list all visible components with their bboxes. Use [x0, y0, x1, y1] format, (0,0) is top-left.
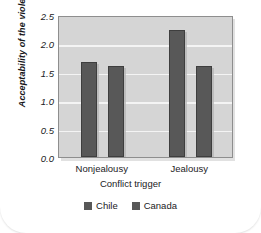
- legend-item[interactable]: Chile: [84, 200, 118, 211]
- gridline: [59, 45, 232, 47]
- x-axis-title: Conflict trigger: [0, 178, 261, 189]
- legend-label: Chile: [96, 200, 118, 211]
- x-axis-tick-label: Jealousy: [171, 163, 209, 174]
- y-axis-tick-label: 2.0: [24, 39, 54, 50]
- bar[interactable]: [169, 30, 185, 157]
- legend-swatch-icon: [84, 202, 92, 210]
- chart-legend: ChileCanada: [0, 200, 261, 211]
- y-axis-tick-label: 0.0: [24, 153, 54, 164]
- bar[interactable]: [108, 66, 124, 157]
- chart-figure-card: Acceptability of the violence 0.00.51.01…: [0, 0, 261, 233]
- y-axis-tick-label: 1.5: [24, 67, 54, 78]
- x-axis-tick-label: Nonjealousy: [76, 163, 128, 174]
- legend-label: Canada: [144, 200, 177, 211]
- bar[interactable]: [196, 66, 212, 157]
- legend-item[interactable]: Canada: [132, 200, 177, 211]
- y-axis-tick-labels: 0.00.51.01.52.02.5: [24, 13, 54, 159]
- y-axis-tick-label: 1.0: [24, 96, 54, 107]
- plot-area: [58, 16, 233, 158]
- x-axis-tick-labels: NonjealousyJealousy: [58, 163, 233, 177]
- y-axis-tick-label: 2.5: [24, 11, 54, 22]
- y-axis-tick-label: 0.5: [24, 124, 54, 135]
- legend-swatch-icon: [132, 202, 140, 210]
- bar[interactable]: [81, 62, 97, 157]
